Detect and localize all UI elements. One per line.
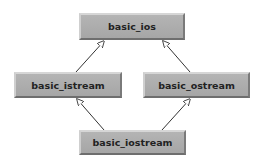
edge-iostream-to-istream — [77, 99, 104, 130]
edge-iostream-to-ostream — [162, 99, 190, 130]
node-basic-iostream: basic_iostream — [79, 130, 186, 155]
node-basic-ostream-label: basic_ostream — [158, 80, 235, 91]
inheritance-diagram: basic_ios basic_istream basic_ostream ba… — [0, 0, 264, 166]
node-basic-iostream-label: basic_iostream — [93, 137, 173, 148]
node-basic-ostream: basic_ostream — [143, 72, 250, 98]
node-basic-istream-label: basic_istream — [31, 80, 104, 91]
node-basic-istream: basic_istream — [14, 72, 122, 98]
node-basic-ios-label: basic_ios — [108, 21, 156, 32]
node-basic-ios: basic_ios — [79, 13, 185, 40]
edge-istream-to-ios — [76, 41, 104, 72]
edge-ostream-to-ios — [163, 41, 190, 72]
